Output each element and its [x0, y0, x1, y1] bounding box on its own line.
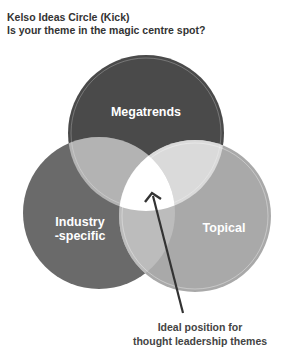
label-industry-line1: Industry — [55, 215, 104, 229]
label-industry-line2: -specific — [55, 229, 106, 243]
label-megatrends: Megatrends — [111, 105, 181, 119]
label-topical: Topical — [203, 221, 246, 235]
venn-diagram: Megatrends Industry -specific Topical — [0, 0, 286, 361]
annotation-caption: Ideal position for thought leadership th… — [130, 320, 270, 348]
annotation-line2: thought leadership themes — [130, 334, 270, 348]
annotation-line1: Ideal position for — [130, 320, 270, 334]
